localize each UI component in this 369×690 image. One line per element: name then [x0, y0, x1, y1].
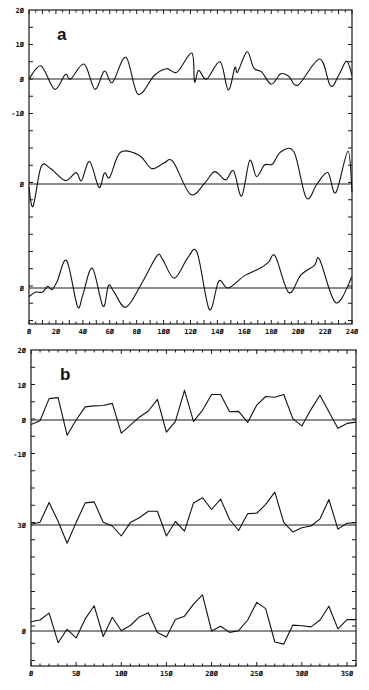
panel-b-frame [31, 350, 356, 666]
panel-a-label: a [57, 25, 67, 44]
series-line-1 [31, 390, 356, 435]
x-tick-label: 1ØØ [115, 670, 128, 678]
panel-a-traces [29, 52, 352, 310]
series-line-2 [31, 492, 356, 543]
x-tick-label: Ø [26, 328, 32, 336]
x-tick-label: 6Ø [106, 328, 115, 336]
y-tick-label: 2Ø [16, 7, 25, 15]
y-tick-label: 2Ø [18, 347, 27, 355]
y-tick-label: Ø [21, 628, 27, 636]
y-tick-label: -1Ø [13, 451, 26, 459]
x-tick-label: 2ØØ [205, 670, 218, 678]
x-tick-label: 1ØØ [157, 328, 170, 336]
series-line-3 [29, 249, 352, 310]
x-tick-label: Ø [28, 670, 34, 678]
series-line-2 [29, 148, 352, 207]
x-tick-label: 2ØØ [292, 328, 305, 336]
panel-b-label: b [60, 365, 70, 384]
x-tick-label: 5Ø [72, 670, 81, 678]
y-tick-label: Ø [19, 285, 25, 293]
panel-a: a Ø2Ø4Ø6Ø8Ø1ØØ12Ø14Ø16Ø18Ø2ØØ22Ø24Ø2Ø1ØØ… [11, 7, 359, 337]
x-tick-label: 35Ø [341, 670, 354, 678]
x-tick-label: 24Ø [346, 328, 359, 336]
y-tick-label: 1Ø [18, 382, 27, 390]
x-tick-label: 16Ø [238, 328, 251, 336]
x-tick-label: 15Ø [160, 670, 173, 678]
series-line-3 [31, 595, 356, 644]
y-tick-label: -1Ø [11, 110, 24, 118]
x-tick-label: 2Ø [52, 328, 61, 336]
y-tick-label: Ø [21, 417, 27, 425]
x-tick-label: 14Ø [211, 328, 224, 336]
figure: a Ø2Ø4Ø6Ø8Ø1ØØ12Ø14Ø16Ø18Ø2ØØ22Ø24Ø2Ø1ØØ… [0, 0, 369, 690]
x-tick-label: 12Ø [184, 328, 197, 336]
x-tick-label: 25Ø [250, 670, 263, 678]
y-tick-label: 3Ø [18, 522, 27, 530]
x-tick-label: 8Ø [132, 328, 141, 336]
series-line-1 [29, 52, 352, 95]
x-tick-label: 4Ø [79, 328, 88, 336]
x-tick-label: 18Ø [265, 328, 278, 336]
y-tick-label: 1Ø [16, 41, 25, 49]
y-tick-label: Ø [19, 76, 25, 84]
x-tick-label: 22Ø [319, 328, 332, 336]
panel-b-ticks: Ø5Ø1ØØ15Ø2ØØ25Ø3ØØ35Ø2Ø1ØØ-1Ø3ØØ [13, 347, 356, 679]
y-tick-label: Ø [19, 181, 25, 189]
panel-b-traces [31, 390, 356, 644]
x-tick-label: 3ØØ [296, 670, 309, 678]
panel-a-frame [29, 10, 352, 324]
panel-b: b Ø5Ø1ØØ15Ø2ØØ25Ø3ØØ35Ø2Ø1ØØ-1Ø3ØØ [13, 347, 356, 679]
panel-a-ticks: Ø2Ø4Ø6Ø8Ø1ØØ12Ø14Ø16Ø18Ø2ØØ22Ø24Ø2Ø1ØØ-1… [11, 7, 359, 337]
